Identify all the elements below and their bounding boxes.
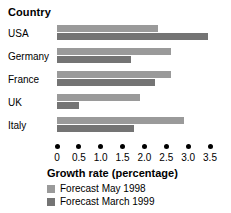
chart-row: France — [0, 70, 231, 92]
chart-row: UK — [0, 93, 231, 115]
category-label-france: France — [8, 74, 39, 86]
legend-label: Forecast March 1999 — [60, 196, 155, 208]
value-axis-title: Growth rate (percentage) — [47, 167, 178, 179]
category-label-germany: Germany — [8, 51, 49, 63]
legend-item: Forecast May 1998 — [47, 183, 227, 196]
axis-tick-label: 2.5 — [159, 152, 173, 163]
axis-tick-dot — [55, 144, 60, 149]
axis-tick-dot — [120, 144, 125, 149]
bar-italy-series-1 — [57, 117, 184, 124]
bar-france-series-2 — [57, 79, 155, 86]
legend-item: Forecast March 1999 — [47, 196, 227, 209]
legend-label: Forecast May 1998 — [60, 183, 146, 195]
bar-germany-series-2 — [57, 56, 131, 63]
bar-italy-series-2 — [57, 125, 134, 132]
legend-swatch-icon — [47, 198, 55, 206]
growth-rate-bar-chart: Country USAGermanyFranceUKItaly 00.51.01… — [0, 0, 231, 213]
axis-tick-label: 0.5 — [72, 152, 86, 163]
axis-tick-dot — [76, 144, 81, 149]
chart-legend: Forecast May 1998Forecast March 1999 — [47, 183, 227, 209]
category-label-italy: Italy — [8, 120, 26, 132]
bar-uk-series-1 — [57, 94, 140, 101]
axis-tick-dot — [164, 144, 169, 149]
axis-tick-label: 1.0 — [94, 152, 108, 163]
bar-usa-series-2 — [57, 33, 208, 40]
axis-tick-dot — [142, 144, 147, 149]
axis-tick-dot — [98, 144, 103, 149]
bar-uk-series-2 — [57, 102, 79, 109]
chart-row: USA — [0, 24, 231, 46]
chart-row: Italy — [0, 116, 231, 138]
plot-area: USAGermanyFranceUKItaly — [0, 24, 231, 140]
axis-tick-label: 3.5 — [203, 152, 217, 163]
bar-germany-series-1 — [57, 48, 171, 55]
axis-tick-dot — [186, 144, 191, 149]
axis-tick-label: 3.0 — [181, 152, 195, 163]
axis-tick-dot — [208, 144, 213, 149]
bar-france-series-1 — [57, 71, 171, 78]
bar-usa-series-1 — [57, 25, 158, 32]
legend-swatch-icon — [47, 185, 55, 193]
category-label-uk: UK — [8, 97, 22, 109]
axis-tick-label: 1.5 — [116, 152, 130, 163]
value-axis: 00.51.01.52.02.53.03.5 — [0, 140, 231, 168]
chart-row: Germany — [0, 47, 231, 69]
axis-tick-label: 0 — [54, 152, 60, 163]
category-label-usa: USA — [8, 28, 29, 40]
category-axis-title: Country — [8, 6, 51, 18]
axis-tick-label: 2.0 — [137, 152, 151, 163]
